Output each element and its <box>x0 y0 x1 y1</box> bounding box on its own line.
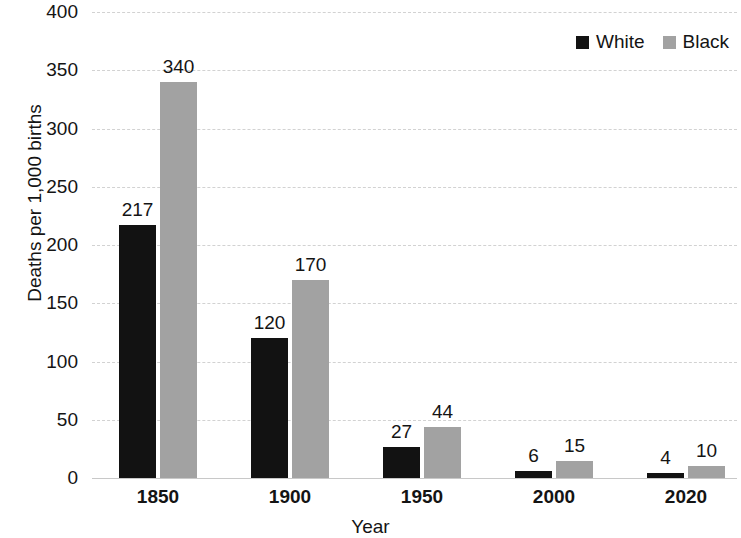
bar[interactable] <box>556 461 593 478</box>
x-axis-tick-label: 1950 <box>401 486 443 508</box>
bar[interactable] <box>292 280 329 478</box>
y-axis-tick-label: 250 <box>0 176 78 198</box>
bar-value-label: 170 <box>295 254 327 276</box>
y-axis-tick-label: 300 <box>0 118 78 140</box>
bar-value-label: 44 <box>432 401 453 423</box>
bar-value-label: 120 <box>254 312 286 334</box>
y-axis-tick-label: 200 <box>0 234 78 256</box>
y-axis-tick-label: 50 <box>0 409 78 431</box>
x-axis-tick-label: 1850 <box>137 486 179 508</box>
gridline <box>92 12 737 13</box>
bar-value-label: 6 <box>528 445 539 467</box>
y-axis-tick-label: 150 <box>0 292 78 314</box>
bar-value-label: 15 <box>564 435 585 457</box>
bar-chart: Deaths per 1,000 births White Black 0501… <box>0 0 741 538</box>
bar-value-label: 10 <box>696 440 717 462</box>
bar[interactable] <box>119 225 156 478</box>
bar[interactable] <box>160 82 197 478</box>
bar-value-label: 4 <box>660 447 671 469</box>
bar[interactable] <box>688 466 725 478</box>
y-axis-tick-label: 0 <box>0 467 78 489</box>
y-axis-title: Deaths per 1,000 births <box>24 33 46 373</box>
x-axis-tick-label: 2020 <box>665 486 707 508</box>
bar[interactable] <box>383 447 420 478</box>
x-axis-title: Year <box>0 516 741 538</box>
y-axis-tick-label: 100 <box>0 351 78 373</box>
bar-value-label: 27 <box>391 421 412 443</box>
x-axis-tick-label: 2000 <box>533 486 575 508</box>
bar[interactable] <box>515 471 552 478</box>
y-axis-tick-label: 400 <box>0 1 78 23</box>
plot-area: 0501001502002503003504002173401201702744… <box>92 12 737 478</box>
y-axis-tick-label: 350 <box>0 59 78 81</box>
bar-value-label: 340 <box>163 56 195 78</box>
x-axis-tick-label: 1900 <box>269 486 311 508</box>
bar-value-label: 217 <box>122 199 154 221</box>
bar[interactable] <box>647 473 684 478</box>
bar[interactable] <box>251 338 288 478</box>
bar[interactable] <box>424 427 461 478</box>
gridline <box>92 478 737 479</box>
